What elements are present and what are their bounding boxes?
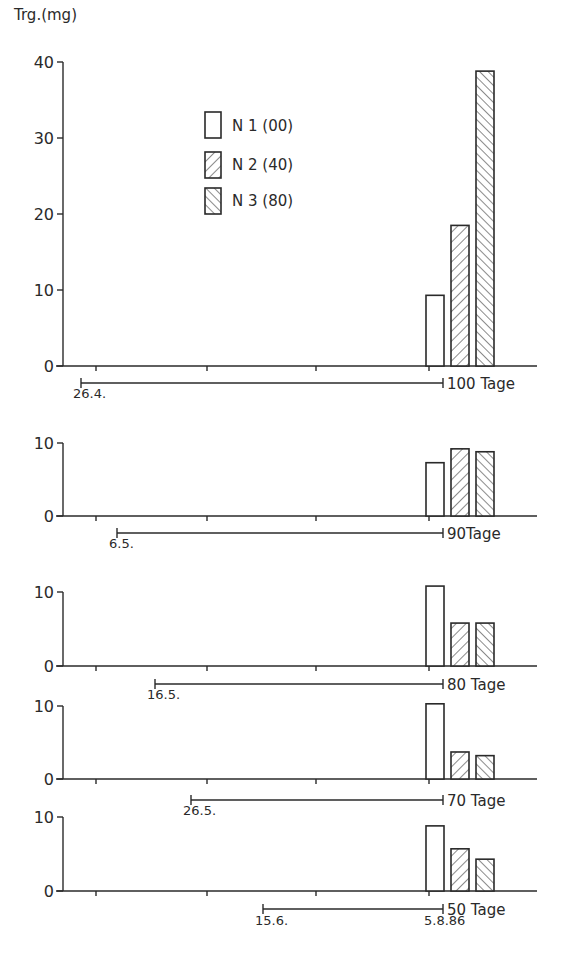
panel-50-tage: 01050 Tage15.6.5.8.86: [34, 808, 537, 928]
y-tick-label: 0: [44, 657, 54, 676]
legend-swatch-n2: [205, 152, 221, 178]
start-date-label: 6.5.: [109, 536, 134, 551]
bar-n3: [476, 452, 494, 516]
y-tick-label: 0: [44, 507, 54, 526]
panel-100-tage: 010203040100 Tage26.4.: [34, 53, 537, 401]
y-tick-label: 10: [34, 281, 54, 300]
bar-n1: [426, 463, 444, 516]
start-date-label: 16.5.: [147, 687, 180, 702]
start-date-label: 15.6.: [255, 913, 288, 928]
y-tick-label: 0: [44, 882, 54, 901]
bar-n2: [451, 752, 469, 779]
bar-n1: [426, 704, 444, 779]
bar-n1: [426, 586, 444, 666]
legend-swatch-n3: [205, 188, 221, 214]
bar-n3: [476, 756, 494, 779]
panel-70-tage: 01070 Tage26.5.: [34, 697, 537, 818]
start-date-label: 26.5.: [183, 803, 216, 818]
y-tick-label: 0: [44, 770, 54, 789]
y-tick-label: 10: [34, 697, 54, 716]
legend-label-n3: N 3 (80): [232, 192, 293, 210]
y-tick-label: 20: [34, 205, 54, 224]
start-date-label: 26.4.: [73, 386, 106, 401]
duration-label: 90Tage: [447, 525, 501, 543]
bar-n2: [451, 449, 469, 516]
bar-n1: [426, 826, 444, 891]
y-tick-label: 0: [44, 357, 54, 376]
panel-80-tage: 01080 Tage16.5.: [34, 583, 537, 702]
y-axis-label: Trg.(mg): [13, 6, 77, 24]
y-tick-label: 10: [34, 808, 54, 827]
legend-swatch-n1: [205, 112, 221, 138]
bar-n2: [451, 849, 469, 891]
end-date-label: 5.8.86: [424, 913, 465, 928]
panel-90tage: 01090Tage6.5.: [34, 434, 537, 551]
legend-label-n1: N 1 (00): [232, 117, 293, 135]
y-tick-label: 40: [34, 53, 54, 72]
legend: N 1 (00) N 2 (40) N 3 (80): [205, 112, 293, 214]
duration-label: 80 Tage: [447, 676, 505, 694]
y-tick-label: 10: [34, 434, 54, 453]
chart-figure: Trg.(mg) N 1 (00) N 2 (40) N 3 (80) 0102…: [0, 0, 562, 965]
bar-n3: [476, 71, 494, 366]
y-tick-label: 10: [34, 583, 54, 602]
legend-label-n2: N 2 (40): [232, 156, 293, 174]
bar-n2: [451, 225, 469, 366]
duration-label: 70 Tage: [447, 792, 505, 810]
chart-panels: 010203040100 Tage26.4.01090Tage6.5.01080…: [34, 53, 537, 928]
bar-n1: [426, 295, 444, 366]
y-tick-label: 30: [34, 129, 54, 148]
bar-n3: [476, 859, 494, 891]
duration-label: 100 Tage: [447, 375, 515, 393]
bar-n2: [451, 623, 469, 666]
bar-n3: [476, 623, 494, 666]
